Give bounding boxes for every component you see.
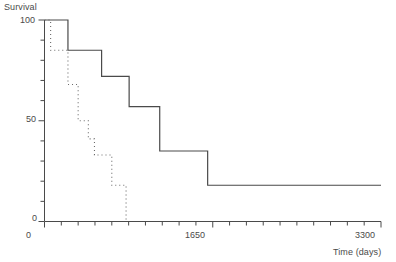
- y-tick-label-50: 50: [26, 114, 36, 124]
- x-tick-label-3300: 3300: [355, 230, 375, 240]
- y-axis-label: Survival: [4, 2, 37, 12]
- x-tick-label-1650: 1650: [185, 230, 205, 240]
- survival-chart-figure: Survival Time (days) 100 50 0 0 1650 330…: [0, 0, 396, 262]
- x-axis-ticks: [45, 222, 382, 228]
- plot-area: [0, 0, 396, 262]
- y-tick-label-100: 100: [20, 15, 35, 25]
- solid-survival-curve: [45, 20, 382, 185]
- x-tick-label-0: 0: [26, 230, 31, 240]
- y-tick-label-0: 0: [32, 213, 37, 223]
- x-axis-label: Time (days): [333, 247, 381, 257]
- y-axis-ticks: [39, 20, 45, 222]
